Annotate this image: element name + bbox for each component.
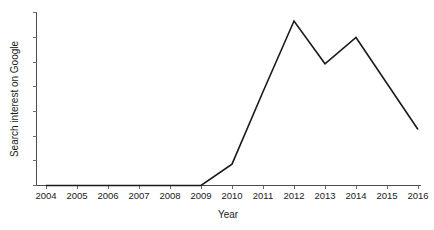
line-chart-figure: 2004200520062007200820092010201120122013… [0,0,434,230]
chart-canvas: 2004200520062007200820092010201120122013… [0,0,434,230]
x-axis-title: Year [218,209,239,220]
x-axis-tick-label: 2014 [345,190,366,201]
x-axis-tick-label: 2010 [221,190,242,201]
x-axis-tick-label: 2004 [35,190,56,201]
x-axis-tick-label: 2013 [314,190,335,201]
x-axis-tick-label: 2015 [376,190,397,201]
x-axis-tick-label: 2007 [128,190,149,201]
x-axis-tick-label: 2012 [283,190,304,201]
x-axis-tick-label: 2016 [407,190,428,201]
chart-background [0,0,434,230]
x-axis-tick-label: 2011 [253,190,273,201]
x-axis-tick-label: 2006 [97,190,118,201]
x-axis-tick-label: 2009 [190,190,211,201]
x-axis-tick-label: 2005 [66,190,87,201]
y-axis-title: Search interest on Google [9,40,20,157]
x-axis-tick-label: 2008 [159,190,180,201]
